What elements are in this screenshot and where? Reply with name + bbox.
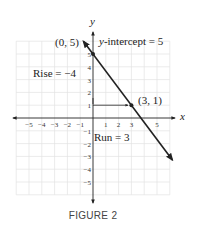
x-axis-label: x — [179, 110, 185, 122]
run-label: Run = 3 — [94, 131, 130, 143]
svg-text:2: 2 — [117, 121, 121, 129]
svg-text:3: 3 — [88, 77, 92, 85]
svg-text:−5: −5 — [84, 179, 92, 187]
figure-caption: FIGURE 2 — [69, 210, 118, 221]
x-tick-labels: −5 −4 −3 −2 −1 1 2 3 5 — [25, 121, 159, 129]
rise-label: Rise = −4 — [33, 67, 76, 79]
point-3-1-label: (3, 1) — [138, 94, 162, 107]
svg-text:−4: −4 — [38, 121, 46, 129]
svg-text:2: 2 — [88, 89, 92, 97]
svg-text:−2: −2 — [84, 141, 92, 149]
figure: y x −5 −4 −3 −2 −1 1 2 3 5 5 4 3 2 1 −1 … — [0, 0, 200, 232]
svg-text:−4: −4 — [84, 166, 92, 174]
point-0-5 — [91, 52, 95, 56]
svg-text:−5: −5 — [25, 121, 33, 129]
svg-text:1: 1 — [88, 102, 92, 110]
svg-text:4: 4 — [88, 64, 92, 72]
svg-text:1: 1 — [104, 121, 108, 129]
y-tick-labels: 5 4 3 2 1 −1 −2 −3 −4 −5 — [84, 51, 92, 187]
point-3-1 — [129, 103, 133, 107]
svg-text:−3: −3 — [84, 153, 92, 161]
svg-text:−3: −3 — [51, 121, 59, 129]
y-intercept-label: y-intercept = 5 — [98, 35, 164, 47]
svg-text:5: 5 — [155, 121, 159, 129]
svg-text:−1: −1 — [84, 128, 92, 136]
svg-text:−2: −2 — [64, 121, 72, 129]
y-axis-label: y — [89, 15, 95, 27]
point-0-5-label: (0, 5) — [55, 36, 79, 49]
svg-text:3: 3 — [130, 121, 134, 129]
